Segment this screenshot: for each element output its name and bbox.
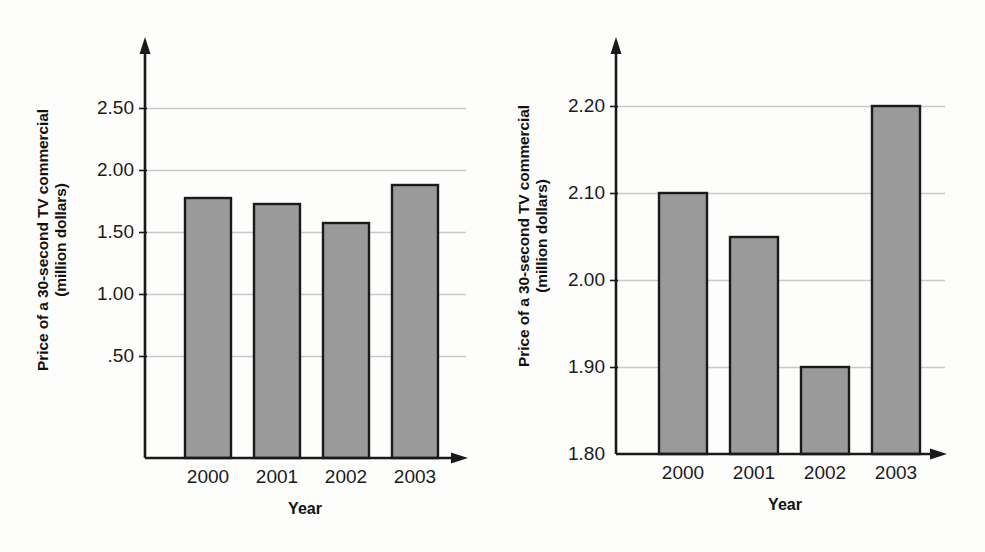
left-ytick-2-50: 2.50: [38, 97, 134, 119]
left-bars: [185, 185, 438, 458]
right-ytick-2-00: 2.00: [509, 269, 605, 291]
figure-canvas: Price of a 30-second TV commercial (mill…: [0, 0, 985, 552]
bar-2001: [730, 237, 778, 454]
bar-2003: [392, 185, 438, 458]
left-ytick-1-00: 1.00: [38, 283, 134, 305]
left-ytick-0-50: .50: [38, 345, 134, 367]
left-x-axis-label: Year: [235, 500, 375, 518]
right-ytick-1-80: 1.80: [509, 443, 605, 465]
bar-2001: [254, 204, 300, 458]
left-ytick-1-50: 1.50: [38, 221, 134, 243]
right-ytick-2-10: 2.10: [509, 182, 605, 204]
chart-panel-right: Price of a 30-second TV commercial (mill…: [493, 0, 985, 552]
right-ytick-2-20: 2.20: [509, 95, 605, 117]
bar-2002: [323, 223, 369, 458]
right-x-axis-label: Year: [715, 496, 855, 514]
right-xtick-2003: 2003: [852, 462, 940, 484]
right-ytick-1-90: 1.90: [509, 356, 605, 378]
bar-2000: [185, 198, 231, 458]
left-ytick-2-00: 2.00: [38, 159, 134, 181]
bar-2002: [801, 367, 849, 454]
bar-2000: [659, 193, 707, 454]
left-xtick-2003: 2003: [371, 466, 459, 488]
right-y-axis-label-line1: Price of a 30-second TV commercial: [515, 105, 532, 367]
chart-panel-left: Price of a 30-second TV commercial (mill…: [0, 0, 492, 552]
bar-2003: [872, 106, 920, 454]
